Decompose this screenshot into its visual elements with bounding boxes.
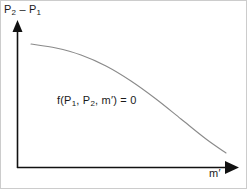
equation-comma-1: , P [76, 94, 90, 106]
equation-f-open: f(P [57, 94, 72, 106]
diagram-figure: P2 – P1 m′ f(P1, P2, m′) = 0 [0, 0, 247, 189]
y-axis-arrowhead [13, 20, 23, 32]
x-axis-label-m: m [209, 167, 218, 179]
y-axis-label-p2: P [4, 3, 12, 15]
x-axis-arrowhead [225, 161, 239, 174]
equation-comma-2: , m [95, 94, 111, 106]
x-axis-label: m′ [209, 167, 221, 179]
equation-annotation: f(P1, P2, m′) = 0 [57, 94, 137, 108]
y-axis-label-minus: – [16, 3, 29, 15]
x-axis-label-prime: ′ [218, 167, 220, 179]
y-axis-label-p1: P [29, 3, 37, 15]
y-axis-label-p1-subscript: 1 [37, 8, 42, 17]
y-axis-label: P2 – P1 [4, 3, 41, 17]
equation-close: ) = 0 [113, 94, 136, 106]
